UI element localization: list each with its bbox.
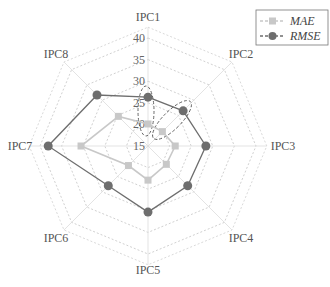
square-marker-icon <box>163 161 170 168</box>
circle-marker-icon <box>144 208 153 217</box>
circle-marker-icon <box>144 93 153 102</box>
circle-marker-icon <box>179 106 188 115</box>
square-marker-icon <box>145 177 152 184</box>
series-mae <box>78 113 179 184</box>
square-marker-icon <box>269 18 276 25</box>
radar-spokes <box>29 27 267 265</box>
legend-label-rmse: RMSE <box>289 29 321 43</box>
square-marker-icon <box>78 143 85 150</box>
axis-label-ipc6: IPC6 <box>44 231 69 245</box>
square-marker-icon <box>125 162 132 169</box>
axis-label-ipc5: IPC5 <box>136 263 161 277</box>
tick-label: 35 <box>133 53 145 67</box>
circle-marker-icon <box>183 181 192 190</box>
series-rmse <box>44 90 211 216</box>
circle-marker-icon <box>201 142 210 151</box>
square-marker-icon <box>159 128 166 135</box>
legend-label-mae: MAE <box>289 14 315 28</box>
square-marker-icon <box>172 143 179 150</box>
circle-marker-icon <box>104 181 113 190</box>
axis-label-ipc4: IPC4 <box>229 231 254 245</box>
legend: MAE RMSE <box>256 10 328 45</box>
axis-label-ipc3: IPC3 <box>271 139 296 153</box>
circle-marker-icon <box>92 90 101 99</box>
axis-label-ipc7: IPC7 <box>8 139 33 153</box>
tick-label: 15 <box>133 139 145 153</box>
radar-chart: 152025303540 IPC1IPC2IPC3IPC4IPC5IPC6IPC… <box>0 0 330 287</box>
square-marker-icon <box>115 113 122 120</box>
axis-label-ipc8: IPC8 <box>44 47 69 61</box>
circle-marker-icon <box>44 142 53 151</box>
tick-label: 30 <box>133 74 145 88</box>
axis-label-ipc1: IPC1 <box>136 10 161 24</box>
circle-marker-icon <box>269 32 277 40</box>
tick-label: 40 <box>133 31 145 45</box>
square-marker-icon <box>145 120 152 127</box>
data-series <box>44 90 211 216</box>
axis-label-ipc2: IPC2 <box>229 47 254 61</box>
